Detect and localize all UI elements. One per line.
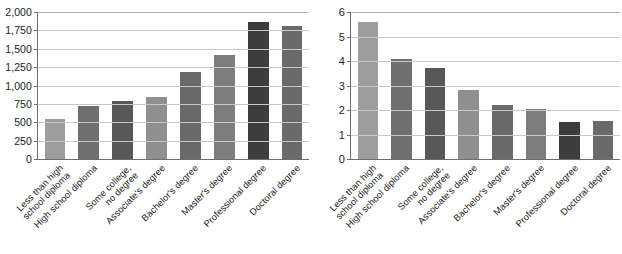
- gridline: [38, 67, 309, 68]
- gridline: [351, 86, 620, 87]
- y-tick-mark: [34, 141, 38, 142]
- gridline: [351, 61, 620, 62]
- gridline: [38, 141, 309, 142]
- y-tick-mark: [34, 159, 38, 160]
- y-tick-mark: [347, 37, 351, 38]
- y-tick-label: 1,250: [5, 61, 32, 73]
- bar: [425, 68, 446, 159]
- gridline: [38, 12, 309, 13]
- x-axis-labels-left: Less than high school diplomaHigh school…: [37, 163, 309, 253]
- y-tick-label: 0: [339, 153, 345, 165]
- y-tick-mark: [34, 122, 38, 123]
- y-tick-mark: [347, 61, 351, 62]
- gridline: [38, 122, 309, 123]
- gridline: [351, 110, 620, 111]
- bar-chart-left: 02505007501,0001,2501,5001,7502,000 Less…: [0, 0, 311, 254]
- y-tick-label: 500: [14, 116, 32, 128]
- y-axis-right: 0123456: [325, 0, 349, 160]
- plot-area-right: [350, 12, 620, 160]
- y-tick-mark: [347, 110, 351, 111]
- bar: [593, 121, 614, 159]
- y-tick-label: 1,000: [5, 80, 32, 92]
- x-axis-labels-right: Less than high school diplomaHigh school…: [350, 163, 620, 253]
- y-tick-mark: [347, 135, 351, 136]
- y-axis-left: 02505007501,0001,2501,5001,7502,000: [0, 0, 36, 160]
- bar: [214, 55, 235, 159]
- y-tick-label: 4: [339, 55, 345, 67]
- bar: [391, 59, 412, 159]
- bar: [458, 90, 479, 159]
- bar: [146, 97, 167, 159]
- y-tick-mark: [347, 12, 351, 13]
- y-tick-label: 1,500: [5, 43, 32, 55]
- gridline: [38, 104, 309, 105]
- bar: [559, 122, 580, 159]
- y-tick-mark: [34, 67, 38, 68]
- bar-chart-right: 0123456 Less than high school diplomaHig…: [311, 0, 622, 254]
- gridline: [38, 49, 309, 50]
- y-tick-label: 750: [14, 98, 32, 110]
- y-tick-label: 1,750: [5, 24, 32, 36]
- gridline: [38, 86, 309, 87]
- bar: [112, 101, 133, 159]
- y-tick-label: 2: [339, 104, 345, 116]
- y-tick-label: 0: [26, 153, 32, 165]
- y-tick-label: 5: [339, 31, 345, 43]
- gridline: [351, 135, 620, 136]
- y-tick-mark: [34, 86, 38, 87]
- gridline: [351, 12, 620, 13]
- bar: [492, 105, 513, 159]
- bar: [358, 22, 379, 159]
- bar: [45, 119, 66, 159]
- y-tick-label: 250: [14, 135, 32, 147]
- y-tick-mark: [34, 49, 38, 50]
- y-tick-label: 6: [339, 6, 345, 18]
- y-tick-mark: [34, 104, 38, 105]
- plot-area-left: [37, 12, 309, 160]
- y-tick-mark: [34, 12, 38, 13]
- bar: [282, 26, 303, 159]
- y-tick-mark: [347, 159, 351, 160]
- gridline: [38, 30, 309, 31]
- bar: [78, 106, 99, 159]
- y-tick-mark: [347, 86, 351, 87]
- y-tick-mark: [34, 30, 38, 31]
- y-tick-label: 2,000: [5, 6, 32, 18]
- y-tick-label: 3: [339, 80, 345, 92]
- y-tick-label: 1: [339, 129, 345, 141]
- charts-container: 02505007501,0001,2501,5001,7502,000 Less…: [0, 0, 622, 254]
- gridline: [351, 37, 620, 38]
- bar: [248, 22, 269, 159]
